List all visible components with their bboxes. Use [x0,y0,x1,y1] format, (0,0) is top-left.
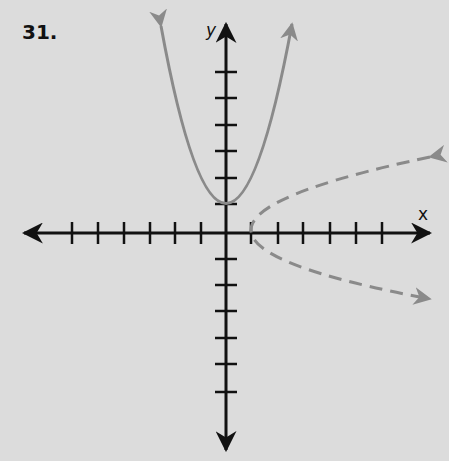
axes [24,24,430,450]
graph [0,0,449,461]
